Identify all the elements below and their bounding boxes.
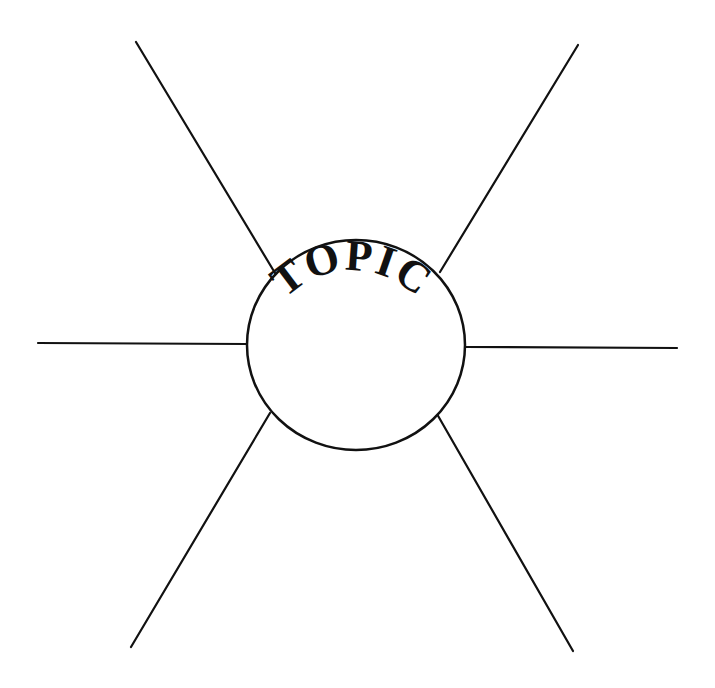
spoke-right xyxy=(466,347,677,348)
spoke-bottom-left xyxy=(131,413,270,647)
spoke-left xyxy=(38,343,247,344)
spoke-top-right xyxy=(440,45,578,272)
spoke-top-left xyxy=(136,42,275,273)
spoke-bottom-right xyxy=(437,414,573,651)
spider-diagram: TOPIC xyxy=(0,0,715,688)
